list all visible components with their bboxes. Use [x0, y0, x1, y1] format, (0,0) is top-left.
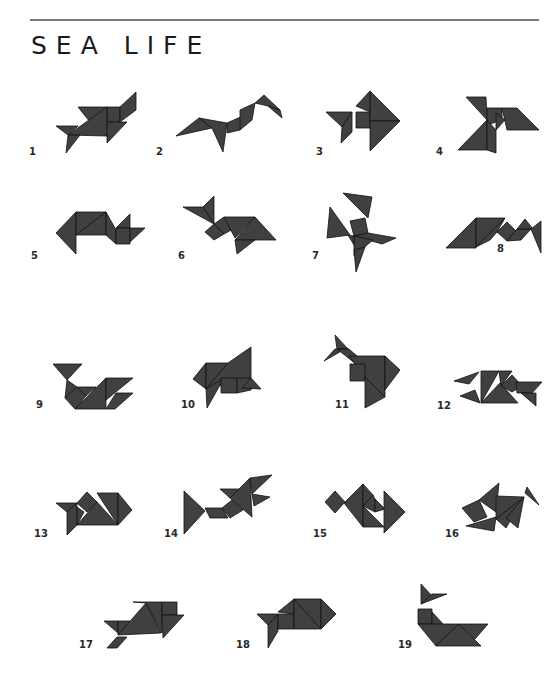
tangram-shape-icon [0, 0, 559, 692]
figure-number: 19 [398, 639, 412, 650]
